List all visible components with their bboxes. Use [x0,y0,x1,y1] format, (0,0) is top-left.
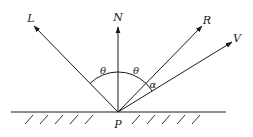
diagram-canvas: L N R V P θ θ α [0,0,253,137]
label-theta-right: θ [133,65,139,76]
label-N: N [112,11,123,24]
reflection-diagram: L N R V P θ θ α [0,0,253,137]
label-R: R [202,14,211,27]
label-V: V [233,32,242,45]
label-alpha: α [150,79,157,90]
label-theta-left: θ [100,65,106,76]
reflection-vector-R [118,26,202,112]
label-P: P [113,118,122,131]
view-vector-V [118,42,232,112]
label-L: L [26,12,34,25]
surface-hatching [25,115,200,124]
